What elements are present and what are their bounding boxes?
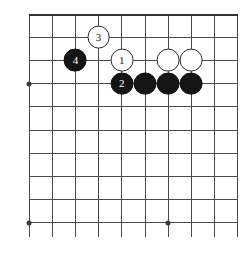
grid-line-vertical [191,14,192,237]
grid-line-vertical [237,14,238,237]
grid-line-horizontal [29,222,238,223]
grid-line-vertical [214,14,215,237]
grid-line-vertical [52,14,53,237]
star-point-bottom-center [166,220,171,225]
grid-line-horizontal [29,153,238,154]
stone-move-number: 4 [73,55,79,66]
grid-line-vertical [168,14,169,237]
black-stone-move-2[interactable]: 2 [110,72,133,95]
grid-line-horizontal [29,106,238,107]
black-stone-move-4[interactable]: 4 [64,49,87,72]
stone-move-number: 1 [119,55,125,66]
stone-move-number: 3 [96,32,102,43]
black-stone-chain-c[interactable] [180,72,203,95]
black-stone-chain-a[interactable] [134,72,157,95]
grid-line-vertical [145,14,146,237]
grid-line-horizontal [29,130,238,131]
grid-line-horizontal [29,37,238,38]
grid-line-vertical [121,14,122,237]
grid-line-vertical [75,14,76,237]
white-stone-move-3[interactable]: 3 [87,26,110,49]
goban-grid: 3412 [0,0,250,255]
grid-line-horizontal [29,199,238,200]
grid-line-horizontal [29,176,238,177]
grid-line-vertical [29,14,30,237]
star-point-left [27,81,32,86]
black-stone-chain-b[interactable] [157,72,180,95]
grid-line-top-edge [29,14,238,16]
stone-move-number: 2 [119,78,125,89]
white-stone-right-b[interactable] [180,49,203,72]
grid-line-horizontal [29,60,238,61]
go-board-diagram: 3412 [0,0,250,255]
white-stone-right-a[interactable] [157,49,180,72]
white-stone-move-1[interactable]: 1 [110,49,133,72]
star-point-bottom-left [27,220,32,225]
